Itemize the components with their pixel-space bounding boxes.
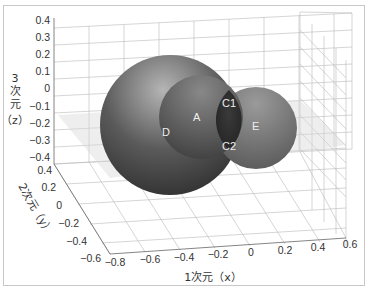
svg-text:0.2: 0.2 [35,48,50,60]
svg-text:−0.8: −0.8 [105,256,126,268]
chart-3d-plot: D A C1 C2 E 0.4 0.3 0.2 0.1 0 −0.1 −0.2 … [0,0,369,295]
svg-text:−0.4: −0.4 [66,235,87,247]
point-label-E: E [252,120,259,132]
svg-text:−0.2: −0.2 [29,117,50,129]
svg-text:0: 0 [56,199,62,211]
x-axis-ticks: −0.8 −0.6 −0.4 −0.2 0 0.2 0.4 0.6 [105,238,358,268]
point-label-C1: C1 [222,97,236,109]
point-label-D: D [162,126,170,138]
svg-text:0.4: 0.4 [37,164,52,176]
svg-text:0.2: 0.2 [41,181,56,193]
y-axis-ticks: 0.4 0.2 0 −0.2 −0.4 −0.6 [37,164,101,264]
svg-text:3: 3 [12,72,19,85]
svg-text:−0.6: −0.6 [140,253,161,265]
x-axis-label: 1次元（x） [184,270,242,284]
svg-text:0.6: 0.6 [343,238,358,250]
svg-text:次: 次 [10,84,21,98]
point-label-C2: C2 [222,140,236,152]
svg-text:0: 0 [248,246,254,258]
svg-text:−0.4: −0.4 [29,151,50,163]
svg-text:−0.2: −0.2 [208,248,229,260]
z-axis-ticks: 0.4 0.3 0.2 0.1 0 −0.1 −0.2 −0.3 −0.4 [29,14,50,163]
svg-text:元: 元 [10,98,21,111]
svg-text:0: 0 [44,82,50,94]
z-axis-label: 3 次 元 （z） [1,72,29,127]
svg-text:−0.2: −0.2 [58,217,79,229]
svg-text:−0.6: −0.6 [80,252,101,264]
svg-text:（z）: （z） [1,114,29,127]
svg-text:0.3: 0.3 [35,31,50,43]
svg-text:0.4: 0.4 [35,14,50,26]
svg-text:0.2: 0.2 [278,244,293,256]
svg-text:−0.3: −0.3 [29,134,50,146]
svg-text:−0.4: −0.4 [174,251,195,263]
svg-text:−0.1: −0.1 [29,100,50,112]
svg-text:0.1: 0.1 [35,65,50,77]
svg-text:0.4: 0.4 [311,241,326,253]
point-label-A: A [193,111,201,123]
